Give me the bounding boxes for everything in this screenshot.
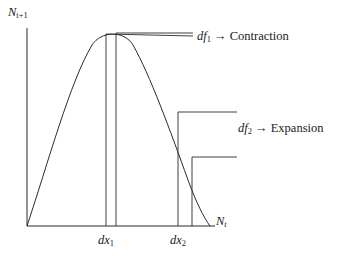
tick-label-dx2: dx2 [170, 234, 186, 248]
tick-label-dx1: dx1 [98, 234, 114, 248]
y-axis-label: Nt+1 [8, 6, 28, 20]
x-axis-label-subscript: t [224, 219, 226, 229]
figure-container: Nt+1 Nt dx1 dx2 df1 → Contraction df2 → … [0, 0, 347, 258]
tick-label-dx1-var: dx [98, 233, 110, 247]
tick-label-dx1-subscript: 1 [110, 238, 114, 248]
annotation-df2-arrow-icon: → [252, 121, 271, 135]
annotation-df2: df2 → Expansion [238, 122, 324, 136]
annotation-df2-var: df [238, 121, 248, 135]
tick-label-dx2-var: dx [170, 233, 182, 247]
y-axis-label-subscript: t+1 [16, 10, 27, 20]
annotation-df1-text: Contraction [230, 29, 289, 43]
recruitment-curve [27, 34, 210, 226]
tick-label-dx2-subscript: 2 [182, 238, 186, 248]
annotation-df1-arrow-icon: → [211, 29, 230, 43]
x-axis-label: Nt [216, 215, 227, 229]
annotation-df2-text: Expansion [271, 121, 324, 135]
annotation-df1: df1 → Contraction [197, 30, 289, 44]
annotation-df1-var: df [197, 29, 207, 43]
